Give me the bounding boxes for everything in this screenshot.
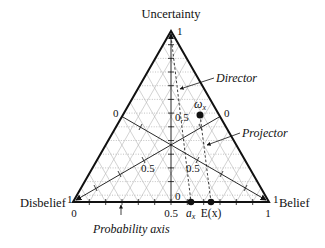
uncertainty-label: Uncertainty	[141, 7, 201, 21]
opinion-point	[197, 112, 204, 119]
uncertainty-half-label: 0.5	[175, 111, 189, 123]
probability-tick-half: 0.5	[164, 207, 178, 219]
belief-label: Belief	[279, 196, 310, 210]
probability-axis-label: Probability axis	[92, 222, 170, 236]
disbelief-vertex-value: 1	[67, 193, 73, 205]
disbelief-label: Disbelief	[20, 196, 67, 210]
belief-half-label: 0.5	[186, 162, 200, 174]
uncertainty-vertex-value: 1	[177, 25, 183, 37]
uncertainty-zero-label: 0	[175, 190, 181, 202]
probability-tick-1: 1	[265, 207, 271, 219]
axes	[76, 34, 266, 202]
disbelief-half-label: 0.5	[141, 162, 155, 174]
right-edge-zero-label: 0	[224, 107, 230, 119]
projector-line	[200, 115, 211, 202]
projector-label: Projector	[241, 126, 288, 140]
base-rate-point	[188, 199, 195, 206]
probability-tick-0: 0	[71, 207, 77, 219]
base-rate-label: ax	[186, 207, 196, 221]
director-label: Director	[215, 71, 257, 85]
expectation-label: E(x)	[201, 207, 222, 220]
opinion-triangle-diagram: Uncertainty 1 Disbelief 1 Belief 1 0 0 0…	[0, 0, 325, 248]
belief-vertex-value: 1	[273, 193, 279, 205]
expectation-point	[208, 199, 215, 206]
left-edge-zero-label: 0	[113, 107, 119, 119]
